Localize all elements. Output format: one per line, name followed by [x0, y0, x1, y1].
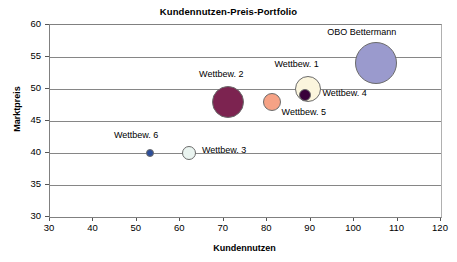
gridline-y-50 [50, 89, 441, 90]
x-tick-label-120: 120 [423, 222, 457, 233]
gridline-y-35 [50, 185, 441, 186]
bubble-obo-bettermann[interactable] [355, 42, 397, 84]
point-label-wettbew-6: Wettbew. 6 [114, 130, 158, 140]
x-tick-label-50: 50 [119, 222, 153, 233]
bubble-wettbew-5[interactable] [263, 93, 281, 111]
y-axis-title: Marktpreis [12, 69, 22, 149]
plot-area [49, 24, 442, 218]
x-tick-label-100: 100 [336, 222, 370, 233]
x-tick-label-60: 60 [162, 222, 196, 233]
x-tick-label-80: 80 [249, 222, 283, 233]
point-label-wettbew-1: Wettbew. 1 [274, 59, 318, 69]
bubble-wettbew-3[interactable] [182, 146, 196, 160]
y-tick-label-35: 35 [11, 178, 41, 189]
x-tick-label-70: 70 [206, 222, 240, 233]
x-tick-label-40: 40 [75, 222, 109, 233]
point-label-wettbew-2: Wettbew. 2 [199, 69, 243, 79]
y-tick-label-45: 45 [11, 114, 41, 125]
y-tick-label-55: 55 [11, 50, 41, 61]
gridline-y-45 [50, 121, 441, 122]
bubble-chart: Kundennutzen-Preis-Portfolio Marktpreis … [0, 0, 457, 262]
point-label-wettbew-5: Wettbew. 5 [282, 107, 326, 117]
x-axis-title: Kundennutzen [49, 243, 440, 253]
bubble-wettbew-2[interactable] [212, 86, 244, 118]
bubble-wettbew-6[interactable] [146, 149, 154, 157]
point-label-obo-bettermann: OBO Bettermann [327, 27, 396, 37]
y-tick-label-50: 50 [11, 82, 41, 93]
y-tick-label-30: 30 [11, 210, 41, 221]
x-tick-label-110: 110 [380, 222, 414, 233]
x-tick-label-90: 90 [293, 222, 327, 233]
y-tick-label-40: 40 [11, 146, 41, 157]
point-label-wettbew-4: Wettbew. 4 [322, 88, 366, 98]
point-label-wettbew-3: Wettbew. 3 [202, 145, 246, 155]
chart-title: Kundennutzen-Preis-Portfolio [0, 6, 457, 17]
x-tick-label-30: 30 [32, 222, 66, 233]
y-tick-label-60: 60 [11, 18, 41, 29]
